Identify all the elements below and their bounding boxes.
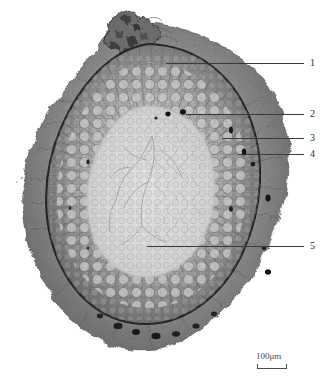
scale-bar-label: 100μm xyxy=(256,351,281,361)
micrograph-figure: 1 2 3 4 5 100μm xyxy=(0,0,330,378)
label-3: 3 xyxy=(310,133,315,143)
leader-line-1 xyxy=(166,63,304,64)
scale-bar-bracket xyxy=(257,364,287,369)
label-4: 4 xyxy=(310,149,315,159)
label-1: 1 xyxy=(310,58,315,68)
leader-line-4 xyxy=(238,154,304,155)
scale-bar: 100μm xyxy=(256,351,306,373)
label-2: 2 xyxy=(310,109,315,119)
micrograph-image xyxy=(0,0,330,378)
leader-line-2 xyxy=(186,114,304,115)
leader-line-5 xyxy=(147,246,304,247)
label-5: 5 xyxy=(310,241,315,251)
leader-line-3 xyxy=(222,138,304,139)
